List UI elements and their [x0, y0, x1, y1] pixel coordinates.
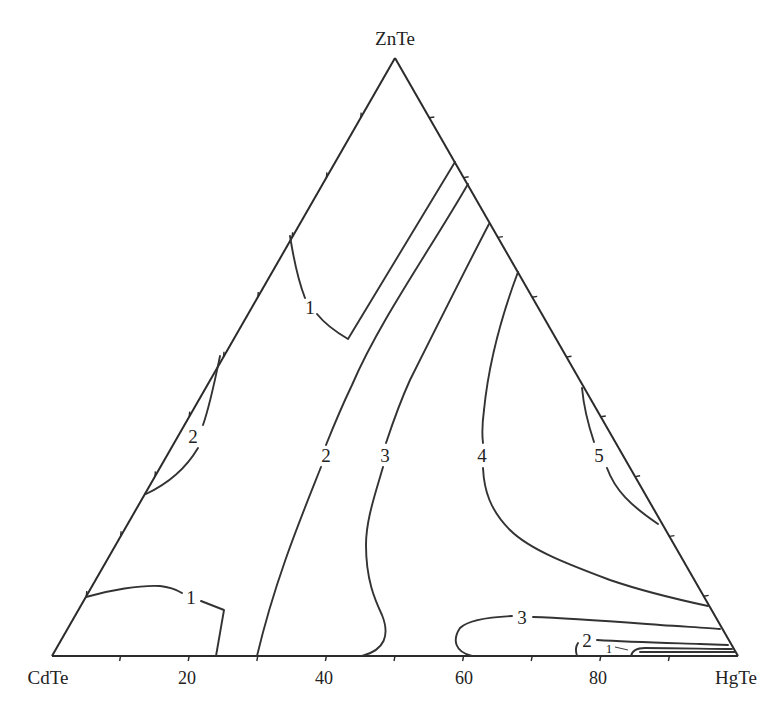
contour-1-upper	[290, 162, 455, 339]
contour-2-bottom	[597, 640, 728, 645]
contour-label-4: 4	[477, 445, 487, 466]
contour-label-1-upper: 1	[305, 297, 315, 318]
contour-label-2-bottom: 2	[582, 630, 592, 651]
contour-3-band	[362, 224, 489, 656]
contour-label-1-bottom: 1	[606, 641, 613, 656]
contour-label-1-lower: 1	[186, 587, 196, 608]
contour-label-2-lens: 2	[188, 426, 198, 447]
vertex-label-top: ZnTe	[375, 28, 415, 49]
vertex-label-right: HgTe	[715, 667, 757, 688]
contour-1-bottom-leader	[615, 647, 628, 650]
contour-lines	[86, 162, 735, 656]
axis-tick-label-60: 60	[455, 668, 473, 688]
contour-2-bottom-hook	[576, 643, 578, 656]
axis-tick-label-40: 40	[315, 668, 333, 688]
contour-label-2-band: 2	[321, 445, 331, 466]
axis-tick-label-80: 80	[589, 668, 607, 688]
vertex-label-left: CdTe	[28, 667, 69, 688]
axis-tick-label-20: 20	[178, 668, 196, 688]
contour-4	[482, 272, 708, 606]
contour-label-5: 5	[594, 445, 604, 466]
contour-label-3-band: 3	[380, 445, 390, 466]
contour-1-lower	[86, 586, 224, 656]
triangle-frame	[52, 58, 738, 656]
ternary-diagram: ZnTe CdTe HgTe 20 40 60 80 1 2 3 4 5 2 1…	[0, 0, 784, 719]
contour-label-3-bottom: 3	[517, 607, 527, 628]
contour-2-band	[257, 184, 468, 656]
